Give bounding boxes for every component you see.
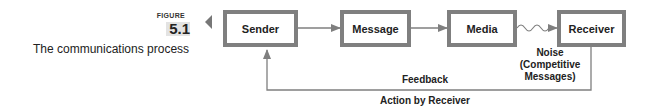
feedback-label: Feedback (385, 74, 465, 86)
node-label: Sender (242, 23, 279, 35)
node-label: Message (352, 23, 398, 35)
node-receiver: Receiver (557, 10, 626, 47)
noise-line: Messages) (502, 71, 598, 83)
node-media: Media (447, 10, 517, 47)
action-label: Action by Receiver (360, 95, 490, 107)
noise-line: (Competitive (502, 59, 598, 71)
node-sender: Sender (223, 10, 298, 47)
noise-line: Noise (502, 47, 598, 59)
noise-label: Noise (Competitive Messages) (502, 47, 598, 83)
node-label: Receiver (569, 23, 615, 35)
node-message: Message (340, 10, 411, 47)
node-label: Media (466, 23, 497, 35)
noise-wave (517, 25, 549, 31)
